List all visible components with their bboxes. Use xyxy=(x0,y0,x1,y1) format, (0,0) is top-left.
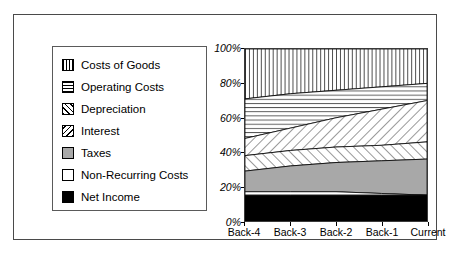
x-axis-tick-label: Current xyxy=(401,227,451,238)
legend-item-taxes[interactable]: Taxes xyxy=(62,142,206,164)
plot-area xyxy=(244,48,428,222)
swatch-horizontal-lines-icon xyxy=(62,81,74,93)
legend-item-label: Interest xyxy=(81,125,119,137)
chart-plot-wrapper: 0%20%40%60%80%100% xyxy=(210,40,438,245)
legend-item-operating-costs[interactable]: Operating Costs xyxy=(62,76,206,98)
swatch-forward-diagonal-icon xyxy=(62,103,74,115)
figure-frame: Costs of Goods Operating Costs Depreciat… xyxy=(13,14,437,240)
legend-item-label: Depreciation xyxy=(81,103,146,115)
chart-screenshot: Costs of Goods Operating Costs Depreciat… xyxy=(0,0,451,254)
swatch-black-fill-icon xyxy=(62,191,74,203)
swatch-vertical-lines-icon xyxy=(62,59,74,71)
legend-item-costs-of-goods[interactable]: Costs of Goods xyxy=(62,54,206,76)
swatch-white-fill-icon xyxy=(62,169,74,181)
legend-item-net-income[interactable]: Net Income xyxy=(62,186,206,208)
x-axis-tick-mark xyxy=(336,222,337,226)
swatch-backward-diagonal-icon xyxy=(62,125,74,137)
x-axis-tick-mark xyxy=(244,222,245,226)
legend-item-non-recurring-costs[interactable]: Non-Recurring Costs xyxy=(62,164,206,186)
legend-item-interest[interactable]: Interest xyxy=(62,120,206,142)
swatch-gray-fill-icon xyxy=(62,147,74,159)
legend-item-label: Costs of Goods xyxy=(81,59,160,71)
x-axis-tick-mark xyxy=(382,222,383,226)
stacked-area-svg xyxy=(245,49,427,221)
legend-item-label: Non-Recurring Costs xyxy=(81,169,188,181)
legend-item-label: Net Income xyxy=(81,191,140,203)
x-axis-tick-mark xyxy=(428,222,429,226)
legend-item-label: Taxes xyxy=(81,147,111,159)
chart-legend: Costs of Goods Operating Costs Depreciat… xyxy=(52,46,207,211)
area-series-net-income xyxy=(245,195,427,221)
legend-item-depreciation[interactable]: Depreciation xyxy=(62,98,206,120)
x-axis-tick-mark xyxy=(290,222,291,226)
legend-item-label: Operating Costs xyxy=(81,81,164,93)
